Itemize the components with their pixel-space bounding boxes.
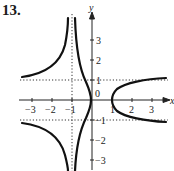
x-axis-arrow-icon: [163, 98, 170, 103]
x-tick-label: −1: [65, 104, 76, 115]
x-tick-label: −3: [25, 104, 36, 115]
y-tick-label: 1: [96, 75, 101, 86]
graph: y x 0 −3 −2 −1 1 2 3 3 2 1 −1 −2 −3: [0, 0, 174, 171]
y-tick-label: −3: [95, 155, 106, 166]
lower-left-branch: [22, 123, 68, 171]
middle-branch: [75, 18, 91, 171]
y-axis-arrow-icon: [90, 12, 95, 19]
x-tick-label: 3: [149, 104, 154, 115]
y-axis-label: y: [88, 2, 94, 13]
y-tick-label: −2: [95, 135, 106, 146]
upper-left-branch: [22, 18, 68, 77]
x-tick-label: 2: [129, 104, 134, 115]
x-axis-label: x: [169, 95, 174, 106]
y-tick-label: 2: [96, 55, 101, 66]
y-tick-label: −1: [95, 115, 106, 126]
origin-label: 0: [95, 88, 100, 99]
asymptotes: [20, 14, 168, 171]
curves: [22, 18, 166, 171]
x-tick-label: −2: [45, 104, 56, 115]
y-tick-label: 3: [96, 35, 101, 46]
